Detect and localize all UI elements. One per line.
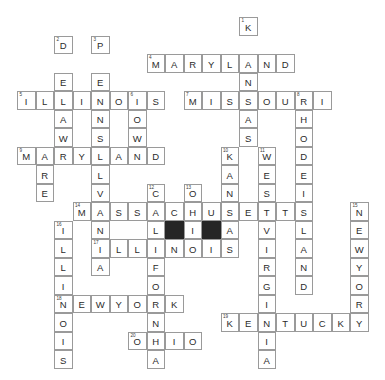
crossword-cell[interactable]: S	[295, 202, 314, 221]
crossword-cell[interactable]: Y	[350, 258, 369, 277]
crossword-cell[interactable]: I	[54, 276, 73, 295]
crossword-cell[interactable]: L	[91, 147, 110, 166]
crossword-cell[interactable]: V	[258, 221, 277, 240]
crossword-cell[interactable]: E	[239, 202, 258, 221]
crossword-cell[interactable]: S	[91, 128, 110, 147]
crossword-cell[interactable]: I	[202, 91, 221, 110]
crossword-cell[interactable]: H	[295, 110, 314, 129]
crossword-cell[interactable]: 7M	[184, 91, 203, 110]
crossword-cell[interactable]: A	[258, 350, 277, 369]
crossword-cell[interactable]: O	[184, 239, 203, 258]
crossword-cell[interactable]: S	[221, 202, 240, 221]
crossword-cell[interactable]: N	[258, 313, 277, 332]
crossword-cell[interactable]: O	[258, 91, 277, 110]
crossword-cell[interactable]: L	[128, 239, 147, 258]
crossword-cell[interactable]: I	[54, 332, 73, 351]
crossword-cell[interactable]: N	[295, 258, 314, 277]
crossword-cell[interactable]: L	[54, 91, 73, 110]
crossword-cell[interactable]: G	[258, 276, 277, 295]
crossword-cell[interactable]: N	[165, 239, 184, 258]
crossword-cell[interactable]: S	[110, 202, 129, 221]
crossword-cell[interactable]: Y	[110, 295, 129, 314]
crossword-cell[interactable]: S	[239, 91, 258, 110]
crossword-cell[interactable]: I	[147, 239, 166, 258]
crossword-cell[interactable]: V	[91, 184, 110, 203]
crossword-cell[interactable]: A	[221, 221, 240, 240]
crossword-cell[interactable]: E	[54, 73, 73, 92]
crossword-cell[interactable]: N	[91, 221, 110, 240]
crossword-cell[interactable]: I	[295, 184, 314, 203]
crossword-cell[interactable]: S	[258, 184, 277, 203]
crossword-cell[interactable]: A	[147, 202, 166, 221]
crossword-cell[interactable]: O	[184, 332, 203, 351]
crossword-cell[interactable]: T	[276, 202, 295, 221]
crossword-cell[interactable]: L	[147, 221, 166, 240]
crossword-cell[interactable]: N	[221, 184, 240, 203]
crossword-cell[interactable]: I	[258, 295, 277, 314]
crossword-cell[interactable]: W	[128, 128, 147, 147]
crossword-cell[interactable]: O	[128, 110, 147, 129]
crossword-cell[interactable]: Y	[73, 147, 92, 166]
crossword-cell[interactable]: I	[184, 221, 203, 240]
crossword-cell[interactable]: D	[295, 147, 314, 166]
crossword-cell[interactable]: O	[295, 128, 314, 147]
crossword-cell[interactable]: N	[239, 73, 258, 92]
crossword-cell[interactable]: 16I	[54, 221, 73, 240]
crossword-cell[interactable]: C	[165, 202, 184, 221]
crossword-cell[interactable]: E	[258, 165, 277, 184]
crossword-cell[interactable]: E	[73, 295, 92, 314]
crossword-cell[interactable]: S	[221, 91, 240, 110]
crossword-cell[interactable]: R	[36, 165, 55, 184]
crossword-cell[interactable]: U	[202, 202, 221, 221]
crossword-cell[interactable]: R	[184, 54, 203, 73]
crossword-cell[interactable]: N	[258, 54, 277, 73]
crossword-cell[interactable]: S	[239, 128, 258, 147]
crossword-cell[interactable]: S	[54, 350, 73, 369]
crossword-cell[interactable]: A	[110, 147, 129, 166]
crossword-cell[interactable]: U	[276, 91, 295, 110]
crossword-cell[interactable]: L	[110, 239, 129, 258]
crossword-cell[interactable]: E	[239, 313, 258, 332]
crossword-cell[interactable]: Y	[202, 54, 221, 73]
crossword-cell[interactable]: 6I	[128, 91, 147, 110]
crossword-cell[interactable]: 1K	[239, 17, 258, 36]
crossword-cell[interactable]: 17I	[91, 239, 110, 258]
crossword-cell[interactable]: E	[350, 221, 369, 240]
crossword-cell[interactable]: L	[91, 165, 110, 184]
crossword-cell[interactable]: A	[54, 110, 73, 129]
crossword-cell[interactable]: F	[147, 258, 166, 277]
crossword-cell[interactable]: 2D	[54, 36, 73, 55]
crossword-cell[interactable]: T	[258, 202, 277, 221]
crossword-cell[interactable]: R	[258, 258, 277, 277]
crossword-cell[interactable]: Y	[350, 313, 369, 332]
crossword-cell[interactable]: 5I	[17, 91, 36, 110]
crossword-cell[interactable]: 4M	[147, 54, 166, 73]
crossword-grid[interactable]: 1K2D3P4MARYLANDEEN5ILLINO6IS7MISSOU8RIAN…	[0, 0, 385, 380]
crossword-cell[interactable]: L	[36, 91, 55, 110]
crossword-cell[interactable]: S	[221, 239, 240, 258]
crossword-cell[interactable]: A	[91, 202, 110, 221]
crossword-cell[interactable]: L	[221, 54, 240, 73]
crossword-cell[interactable]: I	[258, 239, 277, 258]
crossword-cell[interactable]: A	[239, 54, 258, 73]
crossword-cell[interactable]: 19K	[221, 313, 240, 332]
crossword-cell[interactable]: 15N	[350, 202, 369, 221]
crossword-cell[interactable]: C	[313, 313, 332, 332]
crossword-cell[interactable]: S	[128, 202, 147, 221]
crossword-cell[interactable]: O	[128, 295, 147, 314]
crossword-cell[interactable]: A	[147, 350, 166, 369]
crossword-cell[interactable]: O	[54, 313, 73, 332]
crossword-cell[interactable]: O	[110, 91, 129, 110]
crossword-cell[interactable]: A	[295, 239, 314, 258]
crossword-cell[interactable]: S	[147, 91, 166, 110]
crossword-cell[interactable]: E	[295, 165, 314, 184]
crossword-cell[interactable]: D	[147, 147, 166, 166]
crossword-cell[interactable]: 13O	[184, 184, 203, 203]
crossword-cell[interactable]: I	[313, 91, 332, 110]
crossword-cell[interactable]: 10K	[221, 147, 240, 166]
crossword-cell[interactable]: I	[258, 332, 277, 351]
crossword-cell[interactable]: U	[295, 313, 314, 332]
crossword-cell[interactable]: N	[91, 91, 110, 110]
crossword-cell[interactable]: 14M	[73, 202, 92, 221]
crossword-cell[interactable]: L	[54, 239, 73, 258]
